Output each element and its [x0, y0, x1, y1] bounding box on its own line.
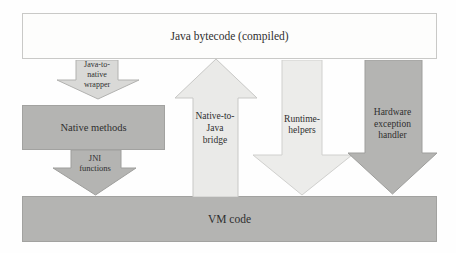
java-bytecode-label: Java bytecode (compiled) [170, 30, 288, 42]
java-bytecode-box: Java bytecode (compiled) [22, 13, 437, 59]
hardware-exception-handler-label: Hardware exception handler [352, 107, 433, 142]
native-methods-box: Native methods [22, 105, 165, 150]
native-methods-label: Native methods [60, 122, 126, 133]
vm-code-label: VM code [208, 213, 251, 225]
architecture-diagram: Java bytecode (compiled) Native methods … [0, 0, 456, 253]
native-to-java-bridge-label: Native-to- Java bridge [175, 110, 255, 146]
jni-functions-label: JNI functions [55, 153, 135, 173]
vm-code-box: VM code [22, 196, 437, 242]
java-to-native-wrapper-label: Java-to- native wrapper [57, 60, 137, 90]
runtime-helpers-label: Runtime- helpers [262, 114, 342, 136]
